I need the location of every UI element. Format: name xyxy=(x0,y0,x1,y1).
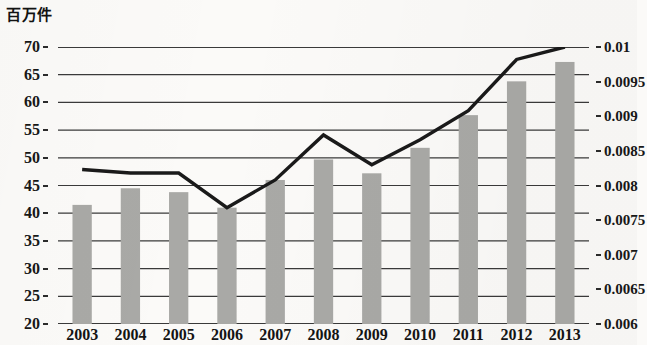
right-axis-tick-label: 0.008 xyxy=(604,177,638,194)
left-axis-tick-mark xyxy=(43,46,48,48)
left-axis-tick-mark xyxy=(43,157,48,159)
x-axis-tick-label: 2009 xyxy=(356,326,388,344)
x-axis-tick-label: 2006 xyxy=(211,326,243,344)
left-axis-tick-label: 40 xyxy=(24,204,40,222)
right-axis-tick-label: 0.0075 xyxy=(604,212,645,229)
bar xyxy=(266,180,285,324)
right-axis-tick-mark xyxy=(596,323,601,325)
left-axis-tick-mark xyxy=(43,295,48,297)
right-axis-tick-mark xyxy=(596,254,601,256)
right-axis-tick-label: 0.01 xyxy=(604,39,630,56)
bar xyxy=(555,62,574,324)
x-axis: 2003200420052006200720082009201020112012… xyxy=(58,324,589,345)
bar xyxy=(72,205,91,324)
right-axis-tick-label: 0.007 xyxy=(604,246,638,263)
left-axis: 2025303540455055606570 xyxy=(0,47,52,324)
left-axis-tick-mark xyxy=(43,101,48,103)
left-axis-tick-mark xyxy=(43,74,48,76)
left-axis-tick-mark xyxy=(43,240,48,242)
bar xyxy=(459,115,478,324)
left-axis-tick-label: 60 xyxy=(24,93,40,111)
left-axis-tick-mark xyxy=(43,323,48,325)
right-axis-tick-label: 0.0095 xyxy=(604,73,645,90)
x-axis-tick-label: 2005 xyxy=(163,326,195,344)
left-axis-tick-label: 30 xyxy=(24,260,40,278)
right-axis-tick-label: 0.006 xyxy=(604,316,638,333)
bar xyxy=(314,159,333,324)
left-axis-tick-mark xyxy=(43,129,48,131)
right-axis-tick-label: 0.0085 xyxy=(604,142,645,159)
right-axis-tick-mark xyxy=(596,288,601,290)
x-axis-tick-label: 2013 xyxy=(549,326,581,344)
bar xyxy=(217,208,236,324)
right-axis-tick-label: 0.009 xyxy=(604,108,638,125)
unit-label: 百万件 xyxy=(6,3,53,24)
right-axis-tick-label: 0.0065 xyxy=(604,281,645,298)
x-axis-tick-label: 2004 xyxy=(114,326,146,344)
left-axis-tick-label: 25 xyxy=(24,287,40,305)
bar xyxy=(121,188,140,324)
left-axis-tick-label: 20 xyxy=(24,315,40,333)
left-axis-tick-label: 70 xyxy=(24,38,40,56)
right-axis-tick-mark xyxy=(596,185,601,187)
right-axis-tick-mark xyxy=(596,46,601,48)
x-axis-tick-label: 2011 xyxy=(453,326,484,344)
bar xyxy=(507,81,526,324)
left-axis-tick-label: 50 xyxy=(24,149,40,167)
x-axis-tick-label: 2012 xyxy=(501,326,533,344)
left-axis-tick-label: 35 xyxy=(24,232,40,250)
plot-area xyxy=(58,47,589,324)
x-axis-tick-label: 2010 xyxy=(404,326,436,344)
x-axis-tick-label: 2003 xyxy=(66,326,98,344)
bar xyxy=(362,173,381,324)
right-axis-tick-mark xyxy=(596,150,601,152)
right-axis: 0.0060.00650.0070.00750.0080.00850.0090.… xyxy=(595,47,647,324)
right-axis-tick-mark xyxy=(596,81,601,83)
left-axis-tick-mark xyxy=(43,212,48,214)
left-axis-tick-label: 65 xyxy=(24,66,40,84)
left-axis-tick-mark xyxy=(43,268,48,270)
bar-series xyxy=(72,62,574,324)
bar xyxy=(169,192,188,324)
left-axis-tick-label: 55 xyxy=(24,121,40,139)
right-axis-tick-mark xyxy=(596,219,601,221)
chart-svg xyxy=(58,47,589,324)
left-axis-tick-label: 45 xyxy=(24,177,40,195)
left-axis-tick-mark xyxy=(43,185,48,187)
bar xyxy=(410,148,429,324)
x-axis-tick-label: 2007 xyxy=(259,326,291,344)
x-axis-tick-label: 2008 xyxy=(308,326,340,344)
right-axis-tick-mark xyxy=(596,115,601,117)
